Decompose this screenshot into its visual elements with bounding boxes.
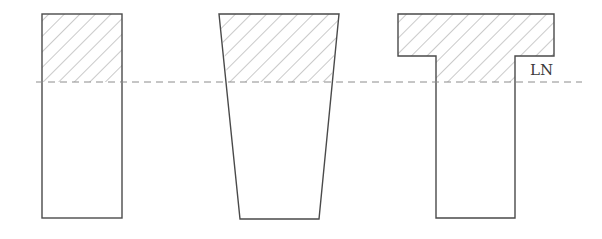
trapezoidal-compression-zone (219, 14, 339, 82)
beam-sections-diagram: LN (0, 0, 602, 239)
t-section (398, 14, 554, 218)
rectangular-compression-zone (42, 14, 122, 82)
neutral-axis-label: LN (530, 61, 553, 79)
rectangular-section (42, 14, 122, 218)
trapezoidal-section (219, 14, 339, 219)
